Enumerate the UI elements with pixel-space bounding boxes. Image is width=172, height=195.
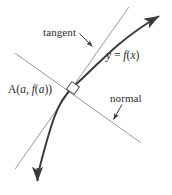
- normal-leader-arrow: [114, 105, 123, 120]
- point-close-paren: ): [48, 83, 52, 95]
- normal-label: normal: [110, 93, 142, 104]
- function-close-paren: ): [136, 49, 140, 61]
- tangent-normal-diagram: tangent y = f(x) A(a, f(a)) normal: [0, 0, 172, 195]
- tangent-label: tangent: [43, 27, 76, 38]
- point-label: A(a, f(a)): [8, 84, 52, 96]
- diagram-canvas: [0, 0, 172, 195]
- function-label: y = f(x): [106, 50, 139, 62]
- tangent-leader-arrow: [80, 34, 93, 47]
- function-equals: =: [111, 49, 123, 61]
